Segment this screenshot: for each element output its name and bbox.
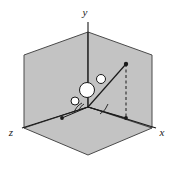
- projection-dot-right: [124, 116, 128, 120]
- axis-label-y: y: [82, 6, 88, 18]
- vector-tip-dot: [124, 62, 128, 66]
- node-upper-right: [97, 75, 106, 84]
- axis-label-x: x: [159, 126, 165, 138]
- node-center: [80, 83, 95, 98]
- projection-dot-left: [60, 116, 64, 120]
- node-lower-left: [71, 97, 79, 105]
- figure-3d-axes: y z x: [0, 0, 174, 170]
- diagram-canvas: y z x: [0, 0, 174, 170]
- axis-label-z: z: [8, 126, 14, 138]
